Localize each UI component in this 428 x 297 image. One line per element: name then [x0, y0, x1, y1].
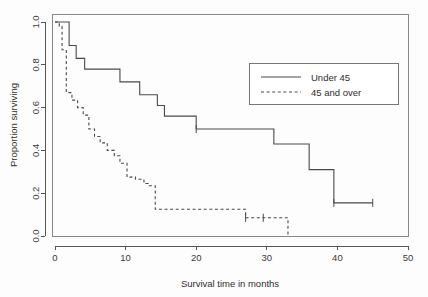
legend[interactable]: Under 45 45 and over: [250, 64, 399, 105]
censoring-marks: [196, 125, 373, 222]
y-tick-label: 0.4: [30, 144, 41, 157]
x-tick-label: 40: [332, 252, 343, 263]
survival-curves: [55, 22, 373, 236]
y-tick-label: 0.2: [30, 187, 41, 200]
curve-under-45: [55, 22, 373, 203]
x-axis: 01020304050: [52, 246, 413, 263]
y-tick-label: 0.0: [30, 229, 41, 242]
legend-label-under-45: Under 45: [311, 72, 350, 83]
x-axis-title: Survival time in months: [181, 278, 279, 289]
kaplan-meier-plot: 01020304050 0.00.20.40.60.81.0 Survival …: [0, 0, 428, 297]
legend-box: [250, 64, 399, 105]
x-tick-label: 10: [120, 252, 131, 263]
y-axis: 0.00.20.40.60.81.0: [30, 15, 45, 242]
survival-chart-figure: 01020304050 0.00.20.40.60.81.0 Survival …: [0, 0, 428, 297]
legend-label-45-and-over: 45 and over: [311, 87, 361, 98]
x-tick-label: 0: [52, 252, 57, 263]
x-tick-label: 30: [262, 252, 273, 263]
y-tick-label: 0.8: [30, 58, 41, 71]
x-tick-label: 20: [191, 252, 202, 263]
y-tick-label: 1.0: [30, 15, 41, 28]
y-tick-label: 0.6: [30, 101, 41, 114]
x-tick-label: 50: [403, 252, 414, 263]
y-axis-title: Proportion surviving: [8, 83, 19, 167]
